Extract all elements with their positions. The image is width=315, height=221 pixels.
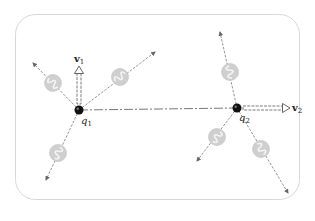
diagram-canvas: q1v1q2v2: [0, 0, 315, 221]
charge-q1: [75, 106, 84, 115]
